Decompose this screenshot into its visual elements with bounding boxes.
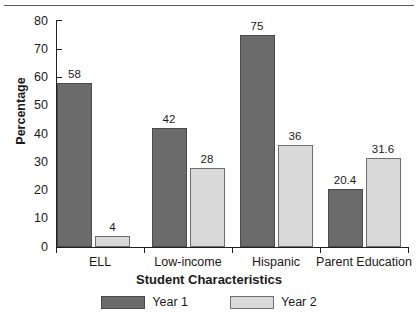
legend-item-year-1[interactable]: Year 1: [101, 296, 188, 309]
bar-value-label: 75: [234, 20, 281, 32]
bar-hispanic-year-2: [278, 145, 313, 247]
bar-chart-figure: 01020304050607080 Percentage 58442287536…: [0, 0, 418, 319]
bar-value-label: 28: [184, 153, 231, 165]
bar-low-income-year-1: [152, 128, 187, 247]
bar-value-label: 20.4: [322, 174, 369, 186]
bar-value-label: 4: [89, 221, 136, 233]
bar-ell-year-1: [57, 83, 92, 247]
y-tick-label: 10: [8, 212, 48, 224]
y-tick-label: 0: [8, 241, 48, 253]
chart-legend: Year 1Year 2: [0, 296, 418, 309]
bar-ell-year-2: [95, 236, 130, 247]
plot-area: 5844228753620.431.6: [56, 21, 408, 247]
bar-value-label: 58: [51, 68, 98, 80]
y-axis-title: Percentage: [14, 51, 28, 171]
x-tick-mark: [144, 247, 145, 253]
x-tick-mark: [408, 247, 409, 253]
bar-value-label: 42: [146, 113, 193, 125]
x-tick-mark: [56, 247, 57, 253]
y-tick-label: 80: [8, 15, 48, 27]
legend-label: Year 1: [152, 296, 188, 309]
bar-value-label: 36: [272, 130, 319, 142]
y-tick-label: 20: [8, 184, 48, 196]
legend-label: Year 2: [281, 296, 317, 309]
legend-swatch-icon: [101, 296, 145, 309]
bar-value-label: 31.6: [360, 143, 407, 155]
x-category-label-parent-education: Parent Education: [304, 255, 418, 269]
top-divider-rule: [4, 5, 414, 6]
x-tick-mark: [232, 247, 233, 253]
legend-item-year-2[interactable]: Year 2: [230, 296, 317, 309]
legend-swatch-icon: [230, 296, 274, 309]
bar-hispanic-year-1: [240, 35, 275, 247]
x-axis-title: Student Characteristics: [0, 272, 418, 287]
bar-low-income-year-2: [190, 168, 225, 247]
x-tick-mark: [320, 247, 321, 253]
bar-parent-education-year-1: [328, 189, 363, 247]
bar-parent-education-year-2: [366, 158, 401, 247]
